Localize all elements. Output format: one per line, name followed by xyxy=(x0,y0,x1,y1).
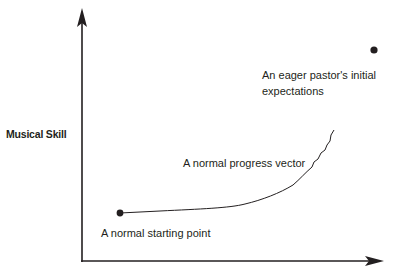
expectations-point-marker-icon xyxy=(370,46,377,53)
starting-point-marker-icon xyxy=(117,210,124,217)
y-axis xyxy=(77,8,87,262)
progress-vector-label: A normal progress vector xyxy=(183,155,305,171)
expectations-label-line1: An eager pastor's initial xyxy=(262,67,376,83)
expectations-label-line2: expectations xyxy=(262,83,324,99)
starting-point-label: A normal starting point xyxy=(101,225,210,241)
x-axis xyxy=(81,256,384,266)
progress-vector-curve xyxy=(120,130,334,213)
y-axis-label: Musical Skill xyxy=(6,126,66,142)
